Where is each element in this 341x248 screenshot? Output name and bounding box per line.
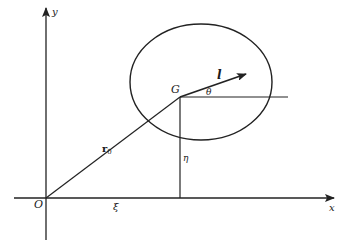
x-axis-label: x	[329, 202, 335, 213]
orientation-vector-label: l	[217, 68, 222, 82]
origin-label: O	[34, 198, 43, 211]
orientation-vector-l	[180, 74, 246, 97]
diagram-canvas: y x O G l θ η ξ r0	[0, 0, 341, 248]
center-of-mass-label: G	[171, 83, 180, 96]
y-axis-label: y	[51, 6, 58, 17]
theta-label: θ	[206, 87, 212, 97]
position-vector-r0	[46, 97, 180, 198]
rigid-body-ellipse	[130, 24, 272, 140]
xi-label: ξ	[113, 201, 119, 212]
eta-label: η	[183, 153, 189, 163]
position-vector-subscript: 0	[107, 148, 111, 156]
